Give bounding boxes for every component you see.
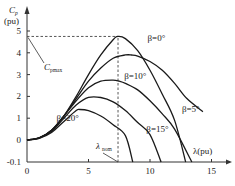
y-axis-unit: (pu) <box>4 16 19 26</box>
y-tick-label: 2 <box>17 91 22 101</box>
curve-label: β=10° <box>124 71 147 81</box>
y-tick-label: 0 <box>17 135 22 145</box>
x-tick-label: 0 <box>25 166 30 176</box>
y-tick-label: 4 <box>17 48 22 58</box>
curve-label: β=20° <box>57 113 80 123</box>
reference-lines <box>27 36 118 162</box>
x-tick-label: 15 <box>207 166 217 176</box>
y-tick-label: -0.1 <box>7 157 21 167</box>
axes: 051015-0.1012345Cp(pu)λ(pu) <box>4 5 232 176</box>
x-tick-label: 10 <box>146 166 156 176</box>
y-tick-label: 5 <box>17 26 22 36</box>
curve-label: β=15° <box>146 124 169 134</box>
x-axis-arrow-icon <box>226 160 232 165</box>
cpmax-label-sub: pmax <box>50 67 62 73</box>
cp-lambda-chart: 051015-0.1012345Cp(pu)λ(pu) β=0°β=5°β=10… <box>0 0 235 186</box>
curve-label: β=5° <box>182 104 200 114</box>
lambda-nom-pointer-line <box>103 153 118 162</box>
x-tick-label: 5 <box>86 166 91 176</box>
x-axis-label: λ(pu) <box>193 146 212 156</box>
curve-15deg <box>27 97 161 162</box>
y-axis-arrow-icon <box>25 6 30 14</box>
labels: β=0°β=5°β=10°β=15°β=20°Cpmaxλnom <box>28 33 200 162</box>
lambda-nom-label: λ <box>95 141 100 151</box>
lambda-nom-label-sub: nom <box>102 146 113 152</box>
curves <box>27 36 203 162</box>
y-tick-label: 3 <box>17 70 22 80</box>
y-tick-label: 1 <box>17 113 22 123</box>
cpmax-pointer-line <box>28 37 44 63</box>
curve-label: β=0° <box>148 33 166 43</box>
